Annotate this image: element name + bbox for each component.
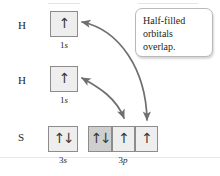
subshell-label-s-3s: 3s: [48, 156, 78, 165]
subshell-letter-3s: s: [63, 155, 67, 165]
electron-arrows-s-3p-1: ↑↓: [91, 131, 109, 145]
subshell-letter-h1: s: [64, 40, 68, 50]
electron-arrows-s-3s: ↑↓: [54, 131, 72, 145]
orbital-box-s-3p-3: ↑: [135, 126, 158, 152]
subshell-letter-h2: s: [64, 95, 68, 105]
subshell-label-h2-1s: 1s: [50, 96, 78, 105]
orbital-diagram-figure: H ↑ 1s H ↑ 1s S ↑↓ 3s ↑↓ ↑ ↑ 3p: [0, 0, 220, 176]
subshell-label-h1-1s: 1s: [50, 41, 78, 50]
top-rule-right: [138, 3, 198, 4]
orbital-box-s-3s: ↑↓: [48, 126, 78, 152]
orbital-box-s-3p-2: ↑: [112, 126, 135, 152]
top-rule-left: [48, 3, 80, 4]
electron-arrows-s-3p-2: ↑: [118, 131, 129, 145]
element-label-hydrogen-1: H: [18, 20, 26, 31]
orbital-box-s-3p-1: ↑↓: [88, 126, 112, 152]
orbital-box-h1-1s: ↑: [50, 11, 78, 37]
element-label-sulfur: S: [18, 132, 24, 143]
electron-arrows-s-3p-3: ↑: [141, 131, 152, 145]
callout-text: Half-filled orbitals overlap.: [143, 15, 185, 52]
orbital-box-h2-1s: ↑: [50, 66, 78, 92]
electron-arrows-h2-1s: ↑: [59, 71, 70, 85]
electron-arrows-h1-1s: ↑: [59, 16, 70, 30]
callout-bubble: Half-filled orbitals overlap.: [135, 8, 213, 57]
element-label-hydrogen-2: H: [18, 75, 26, 86]
subshell-label-s-3p: 3p: [88, 156, 158, 165]
subshell-letter-3p: p: [123, 155, 128, 165]
overlap-arrow-h2-to-3p2: [82, 78, 124, 118]
